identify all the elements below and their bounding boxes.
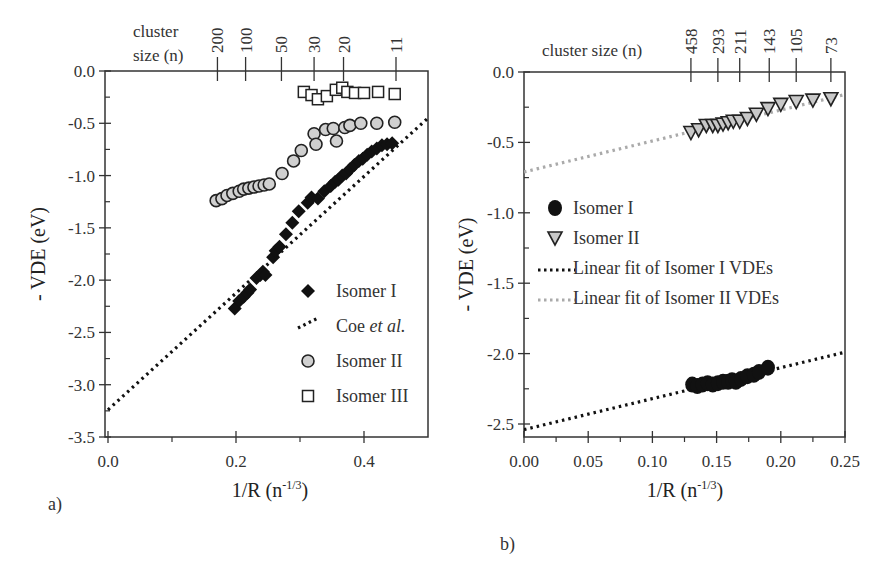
series-isomer-ii [210, 116, 401, 206]
x-axis-title: 1/R (n-1/3) [647, 478, 724, 502]
legend-label: Coe et al. [336, 316, 406, 336]
x-tick-label: 0.10 [638, 452, 668, 471]
top-axis-title-line1: cluster [133, 22, 179, 41]
x-tick-label: 0.4 [353, 452, 375, 471]
legend-label-italic: et al. [370, 316, 406, 336]
x-tick-label: 0.15 [702, 452, 732, 471]
y-axis-title: - VDE (eV) [455, 217, 478, 311]
data-point [288, 155, 300, 167]
data-point [371, 117, 383, 129]
legend-label: Isomer II [573, 228, 639, 248]
data-point [824, 93, 838, 106]
x-tick-label: 0.00 [509, 452, 539, 471]
y-tick-label: -3.0 [68, 376, 95, 395]
legend-marker-icon [303, 391, 314, 402]
top-axis-title: cluster size (n) [542, 41, 642, 60]
y-tick-label: -0.5 [68, 114, 95, 133]
data-point [355, 117, 367, 129]
y-tick-label: -2.0 [487, 345, 514, 364]
data-point [292, 204, 306, 218]
legend-label: Isomer I [573, 198, 633, 218]
top-axis-tick-label: 20 [335, 36, 354, 53]
data-point [761, 360, 775, 376]
data-point [359, 87, 370, 98]
data-point [263, 178, 275, 190]
x-axis-title-main: 1/R (n [647, 479, 698, 502]
top-axis-tick-label: 458 [682, 29, 701, 55]
legend-marker-icon [548, 200, 562, 216]
data-point [373, 86, 384, 97]
y-tick-label: -2.5 [487, 415, 514, 434]
y-tick-label: -0.5 [487, 133, 514, 152]
y-tick-label: -1.5 [68, 219, 95, 238]
x-tick-label: 0.05 [573, 452, 603, 471]
top-axis-tick-label: 293 [709, 29, 728, 55]
top-axis-tick-label: 200 [208, 28, 227, 54]
legend-label: Linear fit of Isomer II VDEs [573, 288, 779, 308]
top-axis-tick-label: 30 [305, 36, 324, 53]
x-tick-label: 0.25 [830, 452, 860, 471]
y-tick-label: 0.0 [74, 62, 95, 81]
legend-marker-icon [302, 355, 314, 367]
y-axis-title: - VDE (eV) [27, 207, 50, 301]
y-tick-label: -2.5 [68, 323, 95, 342]
panel-b-chart: 0.0-0.5-1.0-1.5-2.0-2.50.000.050.100.150… [455, 29, 860, 556]
legend-label-part: Coe [336, 316, 370, 336]
y-tick-label: 0.0 [493, 63, 514, 82]
series-isomer-iii [298, 82, 400, 105]
data-point [276, 167, 288, 179]
x-axis-title-sup: -1/3 [697, 478, 716, 492]
top-axis-tick-label: 11 [387, 37, 406, 53]
legend: Isomer ICoe et al.Isomer IIIsomer III [298, 281, 408, 406]
series-isomer-i [685, 360, 775, 394]
figure-canvas: 0.0-0.5-1.0-1.5-2.0-2.5-3.0-3.50.00.20.4… [0, 0, 892, 567]
x-axis-title-main: 1/R (n [232, 479, 283, 502]
series-isomer-ii [684, 93, 838, 140]
y-tick-label: -1.0 [68, 167, 95, 186]
x-axis-title-sup: -1/3 [282, 478, 301, 492]
x-tick-label: 0.0 [97, 452, 118, 471]
legend-label: Linear fit of Isomer I VDEs [573, 258, 773, 278]
panel-label: b) [500, 534, 515, 555]
data-point [330, 135, 342, 147]
y-tick-label: -1.0 [487, 204, 514, 223]
data-point [344, 119, 356, 131]
top-axis-tick-label: 50 [272, 36, 291, 53]
top-axis-tick-label: 73 [822, 37, 841, 54]
top-axis-tick-label: 100 [237, 28, 256, 54]
y-tick-label: -3.5 [68, 428, 95, 447]
legend-label: Isomer II [336, 351, 402, 371]
data-point [285, 216, 299, 230]
top-axis-tick-label: 143 [760, 29, 779, 55]
fit-line-linear-fit-of-isomer-i-vdes [524, 352, 845, 429]
x-tick-label: 0.20 [766, 452, 796, 471]
data-point [327, 123, 339, 135]
data-point [295, 144, 307, 156]
x-tick-label: 0.2 [225, 452, 246, 471]
x-axis-title-end: ) [717, 479, 724, 502]
top-axis-tick-label: 211 [731, 29, 750, 54]
y-tick-label: -2.0 [68, 271, 95, 290]
legend: Isomer IIsomer IILinear fit of Isomer I … [538, 198, 779, 308]
x-axis-title: 1/R (n-1/3) [232, 478, 309, 502]
panel-label: a) [48, 494, 62, 515]
legend-marker-icon [301, 284, 315, 298]
panel-a-chart: 0.0-0.5-1.0-1.5-2.0-2.5-3.0-3.50.00.20.4… [27, 22, 428, 515]
legend-marker-icon [548, 232, 562, 245]
y-tick-label: -1.5 [487, 274, 514, 293]
data-point [389, 89, 400, 100]
x-axis-title-end: ) [302, 479, 309, 502]
data-point [774, 98, 788, 111]
data-point [806, 94, 820, 107]
data-point [279, 227, 293, 241]
data-point [389, 116, 401, 128]
legend-label: Isomer III [336, 386, 408, 406]
legend-line-icon [298, 318, 318, 328]
legend-label: Isomer I [336, 281, 396, 301]
top-axis-title-line2: size (n) [133, 46, 184, 65]
top-axis-tick-label: 105 [787, 29, 806, 55]
data-point [310, 138, 322, 150]
